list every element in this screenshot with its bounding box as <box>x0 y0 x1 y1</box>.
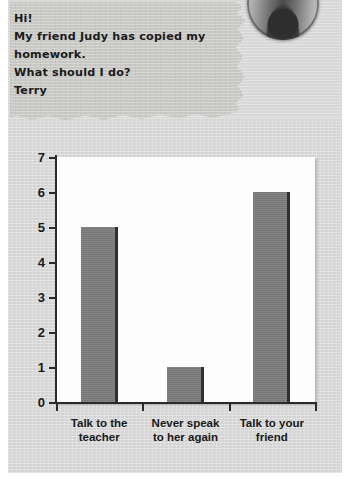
y-tick-label-7: 7 <box>23 151 45 164</box>
x-axis-label-line: Talk to your <box>229 416 315 430</box>
bar-chart: 01234567 Talk to theteacherNever speakto… <box>8 140 342 440</box>
bar-3 <box>253 192 290 402</box>
note-line-5: Terry <box>14 82 224 100</box>
y-tick-label-5: 5 <box>23 221 45 234</box>
note-line-1: Hi! <box>14 10 224 28</box>
y-tick-5 <box>49 227 56 229</box>
x-axis-line <box>55 402 317 404</box>
x-axis-label-line: teacher <box>56 430 142 444</box>
y-tick-label-0: 0 <box>23 396 45 409</box>
y-tick-6 <box>49 192 56 194</box>
y-tick-3 <box>49 297 56 299</box>
y-tick-0 <box>49 402 56 404</box>
x-axis-label-1: Talk to theteacher <box>56 416 142 444</box>
y-tick-1 <box>49 367 56 369</box>
page-root: Hi! My friend Judy has copied my homewor… <box>0 0 350 493</box>
y-tick-label-3: 3 <box>23 291 45 304</box>
y-tick-label-6: 6 <box>23 186 45 199</box>
y-tick-label-4: 4 <box>23 256 45 269</box>
x-axis-label-line: Never speak <box>142 416 228 430</box>
x-axis-label-3: Talk to yourfriend <box>229 416 315 444</box>
x-tick-1 <box>142 404 144 411</box>
y-tick-7 <box>49 157 56 159</box>
x-axis-label-2: Never speakto her again <box>142 416 228 444</box>
x-tick-2 <box>229 404 231 411</box>
note-line-4: What should I do? <box>14 64 224 82</box>
bar-1 <box>81 227 118 402</box>
y-tick-4 <box>49 262 56 264</box>
x-axis-label-line: to her again <box>142 430 228 444</box>
note-text-block: Hi! My friend Judy has copied my homewor… <box>14 10 224 100</box>
x-axis-label-line: friend <box>229 430 315 444</box>
x-tick-0 <box>56 404 58 411</box>
note-line-3: homework. <box>14 46 224 64</box>
portrait-photo <box>247 0 319 40</box>
y-tick-2 <box>49 332 56 334</box>
bar-2 <box>167 367 204 402</box>
x-tick-3 <box>315 404 317 411</box>
x-axis-label-line: Talk to the <box>56 416 142 430</box>
y-tick-label-2: 2 <box>23 326 45 339</box>
note-line-2: My friend Judy has copied my <box>14 28 224 46</box>
y-tick-label-1: 1 <box>23 361 45 374</box>
